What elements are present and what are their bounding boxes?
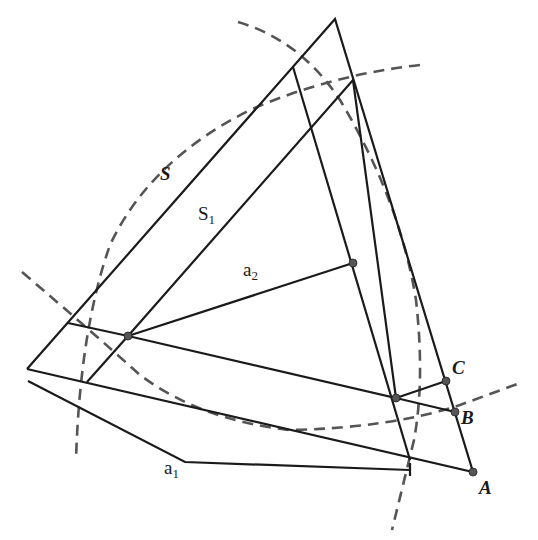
point-C [442, 377, 450, 385]
outer-triangle-S [27, 19, 473, 472]
geometry-diagram: S S1 a2 a1 C B A [0, 0, 538, 540]
label-B: B [460, 407, 474, 428]
label-a1: a1 [164, 457, 179, 481]
point-inner-left [124, 332, 132, 340]
point-inner-bottom [392, 394, 400, 402]
dashed-arc-bottom [22, 272, 520, 430]
label-A: A [478, 477, 492, 498]
point-center [349, 259, 357, 267]
label-C: C [452, 357, 465, 378]
label-S: S [160, 163, 171, 184]
segment-a2 [128, 263, 353, 336]
point-A [469, 468, 477, 476]
line-left-parallel [68, 323, 128, 336]
segment-B-link [396, 398, 455, 412]
point-B [451, 408, 459, 416]
label-a2: a2 [243, 259, 258, 283]
segment-BC-link [396, 381, 446, 398]
label-S1: S1 [198, 203, 215, 227]
